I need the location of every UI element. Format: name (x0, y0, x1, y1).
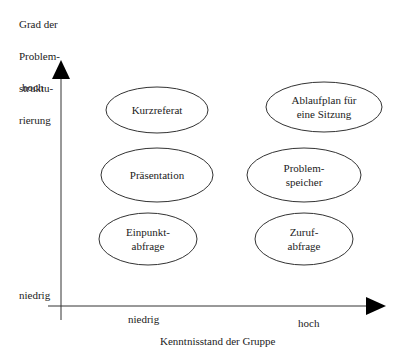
method-node: Kurzreferat (106, 87, 208, 133)
method-node: Ablaufplan füreine Sitzung (266, 82, 382, 132)
method-ellipse (247, 148, 361, 202)
method-node: Einpunkt-abfrage (99, 213, 197, 265)
method-ellipse (255, 213, 353, 265)
method-ellipse (266, 82, 382, 132)
method-label: Kurzreferat (132, 104, 183, 116)
method-label: eine Sitzung (297, 108, 352, 120)
method-node: Präsentation (101, 148, 213, 202)
method-label: Problem- (284, 162, 325, 174)
method-label: Präsentation (130, 169, 185, 181)
method-label: Einpunkt- (126, 226, 170, 238)
method-label: speicher (286, 176, 323, 188)
method-label: abfrage (288, 240, 321, 252)
x-axis-arrowhead-icon (366, 297, 386, 315)
method-node: Zuruf-abfrage (255, 213, 353, 265)
method-label: abfrage (132, 240, 165, 252)
method-ellipse (99, 213, 197, 265)
method-node: Problem-speicher (247, 148, 361, 202)
method-label: Ablaufplan für (291, 94, 356, 106)
y-axis-arrowhead-icon (52, 60, 70, 79)
method-label: Zuruf- (290, 226, 319, 238)
diagram-canvas: KurzreferatAblaufplan füreine SitzungPrä… (0, 0, 406, 352)
